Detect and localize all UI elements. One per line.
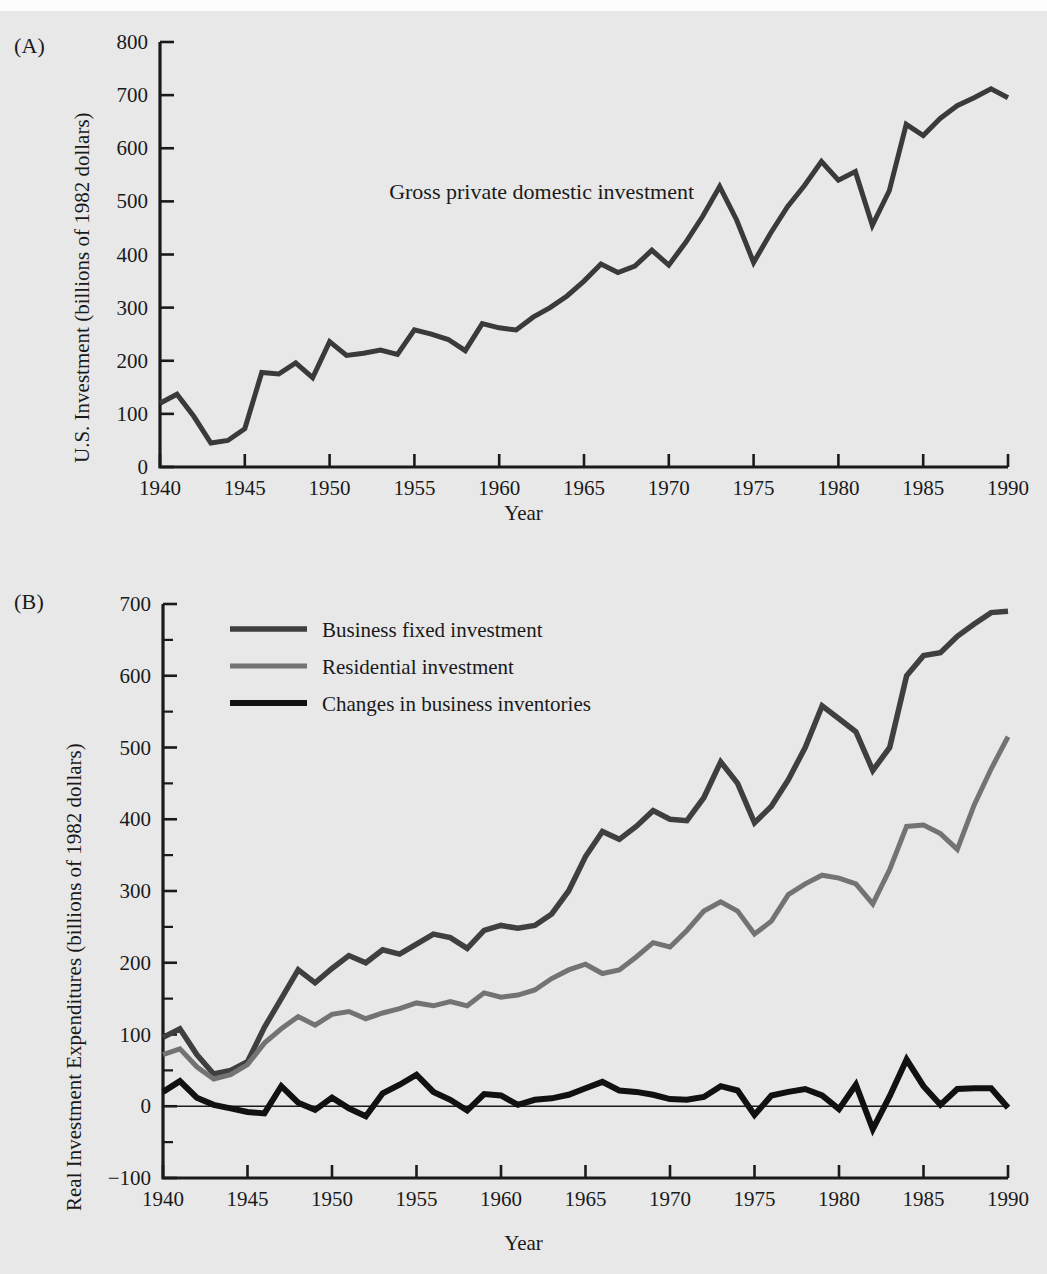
panel-a-x-tick-label: 1945: [224, 476, 266, 500]
panel-a-x-tick-label: 1975: [733, 476, 775, 500]
panel-b-x-tick-label: 1980: [818, 1187, 860, 1211]
panel-a-x-tick-label: 1960: [478, 476, 520, 500]
panel-a-x-tick-label: 1955: [393, 476, 435, 500]
legend-label: Residential investment: [322, 655, 514, 679]
panel-a-x-tick-label: 1990: [987, 476, 1029, 500]
legend-label: Business fixed investment: [322, 618, 543, 642]
panel-a: (A) U.S. Investment (billions of 1982 do…: [0, 11, 1047, 571]
panel-b-y-tick-label: 400: [120, 807, 152, 831]
panel-b-x-tick-label: 1955: [396, 1187, 438, 1211]
panel-b-plot: −100010020030040050060070019401945195019…: [0, 571, 1047, 1274]
panel-b-legend-entry[interactable]: Business fixed investment: [230, 618, 543, 642]
panel-a-x-tick-label: 1950: [309, 476, 351, 500]
panel-b-x-tick-label: 1945: [227, 1187, 269, 1211]
panel-b-x-tick-label: 1970: [649, 1187, 691, 1211]
panel-b-x-tick-label: 1990: [987, 1187, 1029, 1211]
panel-b-y-tick-label: 500: [120, 736, 152, 760]
panel-a-x-tick-label: 1965: [563, 476, 605, 500]
panel-a-x-tick-label: 1985: [902, 476, 944, 500]
scan-top-edge: [0, 0, 1047, 11]
panel-a-series-line: [160, 89, 1008, 443]
panel-a-y-tick-label: 200: [117, 349, 149, 373]
panel-b-x-tick-label: 1985: [903, 1187, 945, 1211]
panel-b-y-tick-label: 300: [120, 879, 152, 903]
panel-b-series-line: [163, 737, 1008, 1079]
panel-b-series-line: [163, 1060, 1008, 1130]
panel-b-y-tick-label: 0: [141, 1094, 152, 1118]
panel-b: (B) Real Investment Expenditures (billio…: [0, 571, 1047, 1274]
panel-b-x-tick-label: 1965: [565, 1187, 607, 1211]
panel-b-x-tick-label: 1975: [734, 1187, 776, 1211]
panel-b-y-tick-label: 700: [120, 592, 152, 616]
panel-a-y-tick-label: 300: [117, 296, 149, 320]
panel-a-y-tick-label: 100: [117, 402, 149, 426]
panel-a-y-tick-label: 400: [117, 243, 149, 267]
panel-b-x-tick-label: 1960: [480, 1187, 522, 1211]
panel-a-y-tick-label: 700: [117, 83, 149, 107]
legend-label: Changes in business inventories: [322, 692, 591, 716]
panel-a-x-tick-label: 1980: [817, 476, 859, 500]
panel-b-legend-entry[interactable]: Residential investment: [230, 655, 514, 679]
panel-a-y-tick-label: 600: [117, 136, 149, 160]
panel-b-x-tick-label: 1940: [142, 1187, 184, 1211]
panel-b-y-tick-label: 600: [120, 664, 152, 688]
panel-a-x-tick-label: 1970: [648, 476, 690, 500]
panel-b-y-tick-label: 200: [120, 951, 152, 975]
panel-a-plot: 0100200300400500600700800194019451950195…: [0, 11, 1047, 571]
panel-a-y-tick-label: 500: [117, 189, 149, 213]
panel-b-legend-entry[interactable]: Changes in business inventories: [230, 692, 591, 716]
panel-b-y-tick-label: 100: [120, 1023, 152, 1047]
panel-b-series-line: [163, 611, 1008, 1074]
panel-a-series-annotation: Gross private domestic investment: [389, 179, 694, 204]
panel-b-x-tick-label: 1950: [311, 1187, 353, 1211]
panel-a-x-tick-label: 1940: [139, 476, 181, 500]
panel-a-y-tick-label: 800: [117, 30, 149, 54]
